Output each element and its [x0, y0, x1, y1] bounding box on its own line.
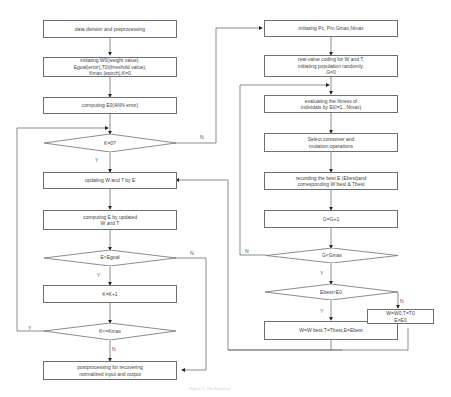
box-label: W=W best,T=Tbest,E=Ebest — [299, 327, 363, 334]
no-label: N — [400, 298, 404, 304]
decision-g-less-gmax-label: G<Gmax — [322, 252, 342, 258]
box-label: W=W0,T=T0 E=E0 — [386, 310, 414, 323]
box-select-crossover: Select,corssover and mutation operations — [264, 133, 398, 152]
box-k-increment: K=K+1 — [43, 285, 177, 303]
box-label: evaluating the fitness of individals by … — [301, 98, 361, 111]
box-label: recording the best E (Ebest)and correspo… — [296, 175, 367, 188]
box-postprocessing: postprocessing for recovering normalized… — [43, 361, 177, 380]
decision-k-le-kmax-label: K<=Kmax — [99, 328, 121, 334]
yes-label: Y — [28, 325, 31, 331]
box-g-increment: G=G+1 — [264, 210, 398, 228]
box-label: K=K+1 — [102, 291, 117, 298]
box-computing-e0: computing E0(ANN error) — [43, 97, 177, 114]
box-label: postprocessing for recovering normalized… — [77, 364, 143, 377]
figure-caption: Figure 1. The flowchart — [150, 386, 270, 391]
no-label: N — [245, 248, 249, 254]
box-assign-initial: W=W0,T=T0 E=E0 — [367, 309, 434, 324]
box-label: updating W and T by E — [85, 177, 136, 184]
decision-e-less-egoal-label: E<Egoal — [100, 254, 119, 260]
box-recording-best: recording the best E (Ebest)and correspo… — [264, 172, 398, 190]
decision-k-equals-zero-label: K=0? — [104, 140, 116, 146]
box-label: computing E by updated W and T — [83, 214, 137, 227]
no-label: N — [112, 346, 116, 352]
box-label: initiating W0(weight value), Egoal(error… — [74, 57, 147, 77]
box-computing-e: computing E by updated W and T — [43, 210, 177, 230]
box-label: initiating Pc, Pm,Gmax,Nmax — [298, 25, 363, 32]
yes-label: Y — [95, 157, 98, 163]
box-label: data division and preprocessing — [75, 26, 145, 33]
no-label: N — [200, 134, 204, 140]
decision-ebest-less-e0-label: Ebest<E0 — [320, 289, 342, 295]
box-label: real-value coding for W and T, initiatin… — [298, 56, 364, 76]
box-evaluating-fitness: evaluating the fitness of individals by … — [264, 95, 398, 113]
box-label: Select,corssover and mutation operations — [308, 136, 355, 149]
yes-label: Y — [320, 308, 323, 314]
yes-label: Y — [97, 272, 100, 278]
no-label: N — [190, 250, 194, 256]
box-label: G=G+1 — [323, 216, 339, 223]
box-data-division: data division and preprocessing — [43, 20, 177, 38]
box-label: computing E0(ANN error) — [82, 102, 138, 109]
box-real-value-coding: real-value coding for W and T, initiatin… — [264, 55, 398, 77]
box-initiating-ga: initiating Pc, Pm,Gmax,Nmax — [264, 20, 398, 37]
box-initiating-parameters: initiating W0(weight value), Egoal(error… — [43, 57, 177, 77]
yes-label: Y — [320, 270, 323, 276]
box-updating-w-t: updating W and T by E — [43, 172, 177, 189]
